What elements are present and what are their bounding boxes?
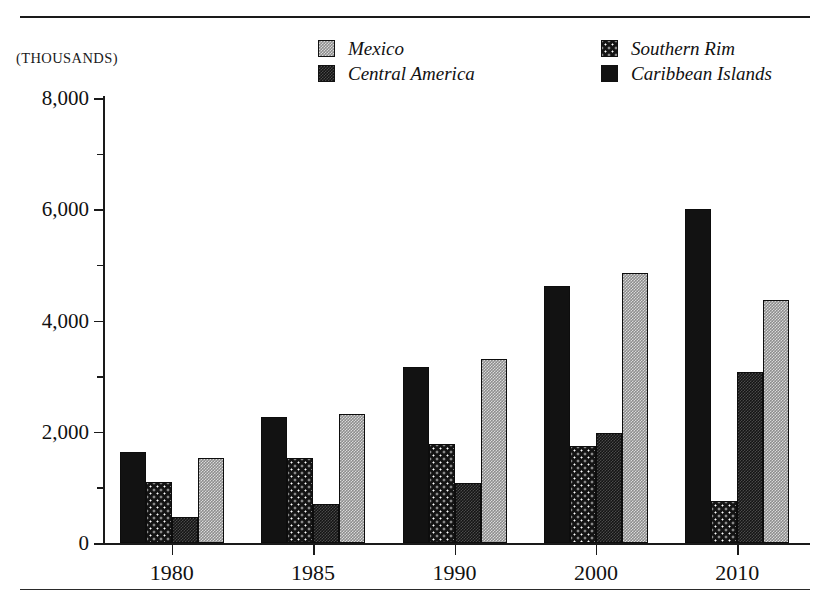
legend-swatch-mexico-icon <box>318 40 335 57</box>
legend-label-southern-rim: Southern Rim <box>631 39 735 58</box>
legend-label-central-america: Central America <box>348 64 475 83</box>
bar-caribbean-2010 <box>685 209 711 543</box>
bar-caribbean-1985 <box>261 417 287 543</box>
chart-legend: Mexico Central America Southern Rim Cari… <box>318 36 818 86</box>
units-caption: (THOUSANDS) <box>16 50 118 67</box>
legend-swatch-central-america-icon <box>318 65 335 82</box>
bar-caribbean-1980 <box>120 452 146 543</box>
y-axis-label: 2,000 <box>42 419 89 444</box>
bar-mexico-1990 <box>481 359 507 543</box>
y-axis-major-tick <box>94 543 103 545</box>
plot-area: 02,0004,0006,0008,000 <box>103 98 810 543</box>
x-axis-tick <box>737 543 739 555</box>
x-axis-tick <box>455 543 457 555</box>
y-axis-major-tick <box>94 98 103 100</box>
legend-swatch-southern-rim-icon <box>601 40 618 57</box>
legend-swatch-caribbean-islands-icon <box>601 65 618 82</box>
y-axis-minor-tick <box>97 154 103 156</box>
bar-southern-1990 <box>429 444 455 543</box>
legend-item-mexico: Mexico <box>318 36 404 61</box>
legend-item-southern-rim: Southern Rim <box>601 36 735 61</box>
bar-southern-1980 <box>146 482 172 543</box>
bottom-rule <box>20 589 810 590</box>
y-axis-minor-tick <box>97 376 103 378</box>
y-axis-major-tick <box>94 432 103 434</box>
legend-label-mexico: Mexico <box>348 39 404 58</box>
bar-central-1990 <box>455 483 481 543</box>
legend-item-central-america: Central America <box>318 61 475 86</box>
clipped-header-text <box>0 0 830 6</box>
bar-mexico-1980 <box>198 458 224 543</box>
legend-label-caribbean-islands: Caribbean Islands <box>631 64 772 83</box>
x-axis-tick <box>172 543 174 555</box>
bar-central-2010 <box>737 372 763 543</box>
x-axis-label-1990: 1990 <box>433 560 477 586</box>
legend-item-caribbean-islands: Caribbean Islands <box>601 61 772 86</box>
bar-southern-1985 <box>287 458 313 543</box>
bar-central-1980 <box>172 517 198 543</box>
bar-caribbean-1990 <box>403 367 429 543</box>
y-axis-label: 6,000 <box>42 197 89 222</box>
y-axis-major-tick <box>94 321 103 323</box>
x-axis-label-1980: 1980 <box>150 560 194 586</box>
y-axis-label: 0 <box>79 531 90 556</box>
x-axis-tick <box>313 543 315 555</box>
bar-central-2000 <box>596 433 622 543</box>
y-axis-major-tick <box>94 209 103 211</box>
bar-mexico-1985 <box>339 414 365 543</box>
x-axis-label-2000: 2000 <box>574 560 618 586</box>
x-axis-label-2010: 2010 <box>715 560 759 586</box>
x-axis-label-1985: 1985 <box>291 560 335 586</box>
x-axis-line <box>103 543 810 545</box>
bar-caribbean-2000 <box>544 286 570 543</box>
y-axis-label: 8,000 <box>42 86 89 111</box>
y-axis-label: 4,000 <box>42 308 89 333</box>
y-axis-minor-tick <box>97 265 103 267</box>
bar-central-1985 <box>313 504 339 543</box>
top-rule <box>20 16 810 18</box>
bar-mexico-2010 <box>763 300 789 543</box>
y-axis-minor-tick <box>97 487 103 489</box>
x-axis-tick <box>596 543 598 555</box>
bar-southern-2010 <box>711 501 737 543</box>
bar-southern-2000 <box>570 446 596 543</box>
bar-mexico-2000 <box>622 273 648 543</box>
